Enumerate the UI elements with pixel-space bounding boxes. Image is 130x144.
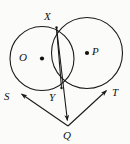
label-point-x: X (44, 11, 51, 22)
intersection-point-x-icon (55, 26, 57, 28)
geometry-canvas (0, 0, 130, 144)
center-dot-o-icon (40, 56, 44, 60)
label-center-o: O (19, 52, 27, 63)
segment-q-to-t (68, 91, 107, 127)
geometry-figure: O P X Y S T Q (0, 0, 130, 144)
label-point-y: Y (49, 92, 55, 103)
label-center-p: P (92, 46, 99, 57)
intersection-point-y-icon (60, 87, 62, 89)
label-point-q: Q (63, 130, 71, 141)
segment-q-to-s (22, 94, 69, 126)
center-dot-p-icon (85, 51, 89, 55)
label-point-t: T (112, 87, 118, 98)
label-point-s: S (4, 91, 10, 102)
